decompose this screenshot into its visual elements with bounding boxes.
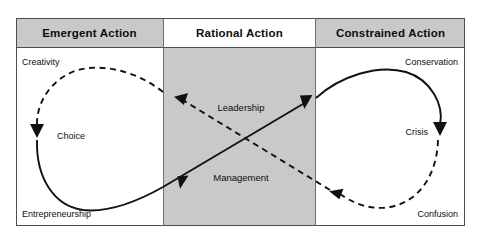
column-header-constrained: Constrained Action bbox=[336, 27, 445, 39]
panel-backgrounds bbox=[16, 18, 465, 226]
body-cell-constrained-bg bbox=[316, 47, 465, 226]
flow-label-leadership: Leadership bbox=[217, 102, 264, 113]
diagram-root: Emergent Action Rational Action Constrai… bbox=[0, 0, 482, 240]
node-label-entrepreneurship: Entrepreneurship bbox=[22, 209, 91, 219]
node-label-confusion: Confusion bbox=[417, 209, 458, 219]
node-label-conservation: Conservation bbox=[405, 57, 458, 67]
flow-label-management: Management bbox=[213, 172, 269, 183]
body-cell-rational-bg bbox=[163, 47, 316, 226]
node-label-creativity: Creativity bbox=[22, 57, 60, 67]
column-headers: Emergent Action Rational Action Constrai… bbox=[42, 27, 445, 39]
node-label-choice: Choice bbox=[57, 131, 85, 141]
node-label-crisis: Crisis bbox=[406, 127, 429, 137]
column-header-rational: Rational Action bbox=[196, 27, 283, 39]
adaptive-cycle-diagram: Emergent Action Rational Action Constrai… bbox=[0, 0, 482, 240]
column-header-emergent: Emergent Action bbox=[42, 27, 137, 39]
